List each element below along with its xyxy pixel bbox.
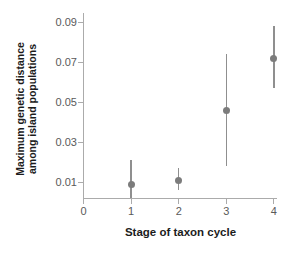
y-tick-label: 0.05: [44, 96, 77, 108]
y-tick-label: 0.03: [44, 136, 77, 148]
x-tick: [178, 199, 179, 205]
x-tick: [226, 199, 227, 205]
y-axis-title: Maximum genetic distance among island po…: [14, 21, 38, 197]
y-axis-line: [83, 13, 84, 199]
data-point: [270, 55, 277, 62]
x-tick-label: 1: [121, 205, 141, 217]
y-tick: [78, 142, 84, 143]
genetic-distance-chart: Maximum genetic distance among island po…: [0, 0, 290, 254]
x-tick: [273, 199, 274, 205]
y-tick-label: 0.01: [44, 176, 77, 188]
y-axis-title-line2: among island populations: [26, 21, 38, 197]
x-axis-line: [83, 198, 277, 199]
y-tick-label: 0.09: [44, 16, 77, 28]
y-tick: [78, 62, 84, 63]
y-tick: [78, 22, 84, 23]
x-tick-label: 2: [169, 205, 189, 217]
x-axis-title: Stage of taxon cycle: [84, 226, 277, 238]
y-tick: [78, 182, 84, 183]
data-point: [223, 107, 230, 114]
x-tick-label: 4: [264, 205, 284, 217]
x-tick-label: 0: [74, 205, 94, 217]
data-point: [128, 181, 135, 188]
y-tick-label: 0.07: [44, 56, 77, 68]
y-tick: [78, 102, 84, 103]
x-tick: [131, 199, 132, 205]
x-tick-label: 3: [216, 205, 236, 217]
x-tick: [83, 199, 84, 205]
y-axis-title-line1: Maximum genetic distance: [14, 21, 26, 197]
error-bar: [130, 160, 132, 198]
data-point: [175, 177, 182, 184]
